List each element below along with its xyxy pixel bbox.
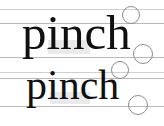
marker-h-ascender-upper [122, 6, 140, 24]
marker-h-baseline-lower [128, 95, 148, 115]
specimen-lower-word: pinch [26, 64, 119, 106]
marker-h-ascender-lower [111, 61, 129, 79]
specimen-canvas: pinch pinch [0, 0, 164, 126]
specimen-upper-word: pinch [22, 8, 131, 57]
marker-h-baseline-upper [133, 44, 153, 64]
